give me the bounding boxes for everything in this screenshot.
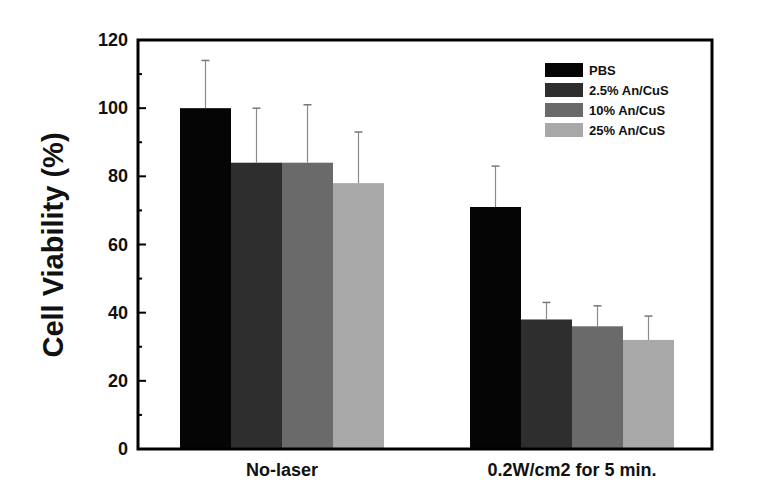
legend-label: 25% An/CuS xyxy=(589,123,665,138)
legend-label: PBS xyxy=(589,63,616,78)
y-tick-label: 20 xyxy=(108,371,128,391)
bar xyxy=(470,207,521,449)
y-tick-label: 40 xyxy=(108,303,128,323)
bars-layer xyxy=(180,108,674,449)
y-axis-label: Cell Viability (%) xyxy=(37,132,69,357)
bar-chart: 020406080100120 Cell Viability (%) No-la… xyxy=(0,0,757,503)
y-tick-label: 80 xyxy=(108,166,128,186)
bar xyxy=(180,108,231,449)
x-category-label: No-laser xyxy=(246,460,318,480)
legend: PBS2.5% An/CuS10% An/CuS25% An/CuS xyxy=(545,63,669,138)
y-tick-label: 60 xyxy=(108,235,128,255)
y-tick-label: 0 xyxy=(118,439,128,459)
legend-swatch xyxy=(545,83,583,97)
bar xyxy=(231,163,282,449)
y-tick-label: 120 xyxy=(98,30,128,50)
legend-label: 10% An/CuS xyxy=(589,103,665,118)
legend-swatch xyxy=(545,103,583,117)
bar xyxy=(282,163,333,449)
bar xyxy=(572,326,623,449)
y-tick-label: 100 xyxy=(98,98,128,118)
bar xyxy=(521,319,572,449)
x-axis-categories: No-laser0.2W/cm2 for 5 min. xyxy=(246,460,657,480)
bar xyxy=(333,183,384,449)
legend-swatch xyxy=(545,63,583,77)
x-category-label: 0.2W/cm2 for 5 min. xyxy=(487,460,656,480)
bar xyxy=(623,340,674,449)
legend-swatch xyxy=(545,123,583,137)
legend-label: 2.5% An/CuS xyxy=(589,83,669,98)
